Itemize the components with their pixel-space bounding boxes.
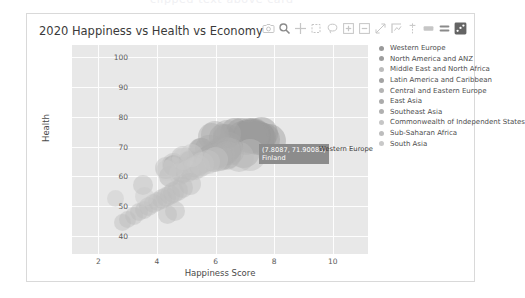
legend-marker-icon <box>379 67 384 72</box>
legend-item[interactable]: North America and ANZ <box>379 54 525 65</box>
reset-axes-icon[interactable] <box>389 21 404 36</box>
x-axis-tick-label: 4 <box>137 257 177 266</box>
legend-item[interactable]: Southeast Asia <box>379 107 525 118</box>
scatter-bubble[interactable] <box>114 214 131 231</box>
legend-item-label: Middle East and North Africa <box>390 65 490 73</box>
zoom-icon[interactable] <box>277 21 292 36</box>
legend-item[interactable]: Commonwealth of Independent States <box>379 117 525 128</box>
legend-marker-icon <box>379 99 384 104</box>
legend-item-label: South Asia <box>390 140 427 148</box>
scatter-bubble[interactable] <box>135 187 154 206</box>
legend-marker-icon <box>379 46 384 51</box>
clipped-text-strip: clipped text above card <box>0 0 500 12</box>
spike-lines-icon[interactable] <box>405 21 420 36</box>
scatter-bubble[interactable] <box>156 160 177 181</box>
tooltip-coords: (7.8087, 71.90083) <box>262 146 326 154</box>
legend-item[interactable]: Sub-Saharan Africa <box>379 128 525 139</box>
legend-marker-icon <box>379 109 384 114</box>
zoom-out-icon[interactable] <box>357 21 372 36</box>
legend-marker-icon <box>379 78 384 83</box>
hover-compare-icon[interactable] <box>421 21 436 36</box>
legend-item-label: Southeast Asia <box>390 108 442 116</box>
legend-item[interactable]: South Asia <box>379 138 525 149</box>
x-axis-tick-label: 10 <box>313 257 353 266</box>
legend-item[interactable]: Latin America and Caribbean <box>379 75 525 86</box>
x-axis-tick-label: 2 <box>78 257 118 266</box>
legend-item-label: Commonwealth of Independent States <box>390 118 525 126</box>
lasso-select-icon[interactable] <box>325 21 340 36</box>
hover-closest-icon[interactable] <box>437 21 452 36</box>
legend-marker-icon <box>379 131 384 136</box>
pan-icon[interactable] <box>293 21 308 36</box>
x-axis-tick-label: 8 <box>254 257 294 266</box>
y-axis-tick-label: 80 <box>88 113 128 122</box>
plotly-logo-icon[interactable] <box>453 21 468 36</box>
legend-item-label: Western Europe <box>390 44 446 52</box>
legend-item[interactable]: East Asia <box>379 96 525 107</box>
scatter-bubble[interactable] <box>158 205 177 224</box>
legend-item[interactable]: Western Europe <box>379 43 525 54</box>
autoscale-icon[interactable] <box>373 21 388 36</box>
plotly-modebar[interactable] <box>261 20 468 37</box>
chart-card: 2020 Happiness vs Health vs Economy Heal… <box>26 13 475 282</box>
x-axis-title: Happiness Score <box>72 268 368 278</box>
y-axis-title: Health <box>41 114 51 142</box>
clipped-text: clipped text above card <box>150 0 294 6</box>
legend-marker-icon <box>379 120 384 125</box>
camera-icon[interactable] <box>261 21 276 36</box>
y-axis-tick-label: 40 <box>88 232 128 241</box>
y-axis-tick-label: 50 <box>88 202 128 211</box>
zoom-in-icon[interactable] <box>341 21 356 36</box>
y-axis-tick-label: 70 <box>88 143 128 152</box>
legend-item-label: North America and ANZ <box>390 55 473 63</box>
legend-item-label: Latin America and Caribbean <box>390 76 492 84</box>
chart-legend[interactable]: Western EuropeNorth America and ANZMiddl… <box>379 43 525 149</box>
gridline-vertical <box>157 45 158 254</box>
y-axis-tick-label: 90 <box>88 83 128 92</box>
legend-item-label: Sub-Saharan Africa <box>390 129 457 137</box>
y-axis-tick-label: 100 <box>88 53 128 62</box>
y-axis-tick-label: 60 <box>88 172 128 181</box>
legend-marker-icon <box>379 88 384 93</box>
zoom-box-select-icon[interactable] <box>309 21 324 36</box>
legend-marker-icon <box>379 141 384 146</box>
legend-item[interactable]: Middle East and North Africa <box>379 64 525 75</box>
legend-item-label: East Asia <box>390 97 422 105</box>
tooltip-country: Finland <box>262 154 326 162</box>
legend-item-label: Central and Eastern Europe <box>390 87 487 95</box>
legend-item[interactable]: Central and Eastern Europe <box>379 85 525 96</box>
tooltip-trace-label: Western Europe <box>319 145 373 153</box>
x-axis-tick-label: 6 <box>196 257 236 266</box>
chart-title: 2020 Happiness vs Health vs Economy <box>39 24 263 38</box>
legend-marker-icon <box>379 56 384 61</box>
